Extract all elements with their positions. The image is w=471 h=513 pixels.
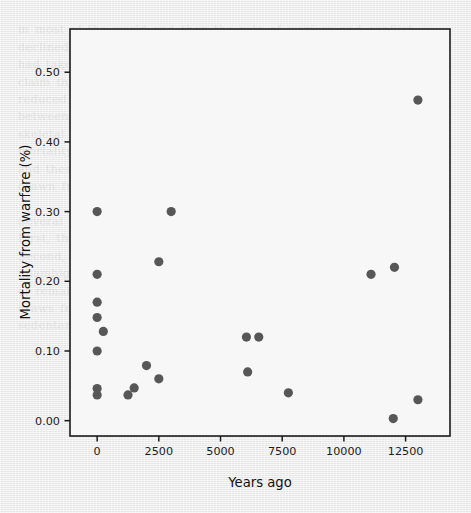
data-point bbox=[130, 383, 139, 392]
y-tick-label-0.30: 0.30 bbox=[35, 206, 60, 219]
data-point bbox=[243, 367, 252, 376]
x-tick-label-0: 0 bbox=[94, 445, 101, 458]
x-tick-label-10000: 10000 bbox=[326, 445, 362, 458]
x-axis-title: Years ago bbox=[227, 475, 292, 490]
data-point bbox=[242, 332, 251, 341]
y-tick-label-0.00: 0.00 bbox=[35, 415, 60, 428]
data-point bbox=[390, 263, 399, 272]
data-point bbox=[413, 95, 422, 104]
y-tick-label-0.50: 0.50 bbox=[35, 66, 60, 79]
data-point bbox=[123, 390, 132, 399]
y-tick-label-0.20: 0.20 bbox=[35, 275, 60, 288]
data-point bbox=[154, 374, 163, 383]
scatter-plot-figure: 02500500075001000012500 0.000.100.200.30… bbox=[0, 0, 471, 513]
x-tick-label-12500: 12500 bbox=[388, 445, 424, 458]
y-axis-title: Mortality from warfare (%) bbox=[18, 145, 33, 320]
data-point bbox=[389, 414, 398, 423]
data-point bbox=[93, 270, 102, 279]
data-point bbox=[366, 270, 375, 279]
data-point bbox=[93, 313, 102, 322]
y-axis-tick-labels: 0.000.100.200.300.400.50 bbox=[35, 66, 60, 427]
data-point bbox=[142, 361, 151, 370]
y-tick-label-0.10: 0.10 bbox=[35, 345, 60, 358]
x-tick-label-2500: 2500 bbox=[145, 445, 173, 458]
chart-svg: 02500500075001000012500 0.000.100.200.30… bbox=[0, 0, 471, 513]
data-point bbox=[284, 388, 293, 397]
data-point bbox=[93, 298, 102, 307]
data-point bbox=[99, 327, 108, 336]
x-axis-tick-labels: 02500500075001000012500 bbox=[94, 445, 424, 458]
data-point bbox=[93, 346, 102, 355]
data-point bbox=[413, 395, 422, 404]
y-axis-ticks bbox=[65, 72, 71, 420]
data-point bbox=[93, 390, 102, 399]
x-axis-ticks bbox=[97, 436, 405, 442]
data-point bbox=[154, 257, 163, 266]
x-tick-label-5000: 5000 bbox=[206, 445, 234, 458]
data-point bbox=[167, 207, 176, 216]
data-point bbox=[93, 207, 102, 216]
data-point bbox=[254, 332, 263, 341]
plot-area-background bbox=[70, 29, 450, 436]
x-tick-label-7500: 7500 bbox=[268, 445, 296, 458]
y-tick-label-0.40: 0.40 bbox=[35, 136, 60, 149]
